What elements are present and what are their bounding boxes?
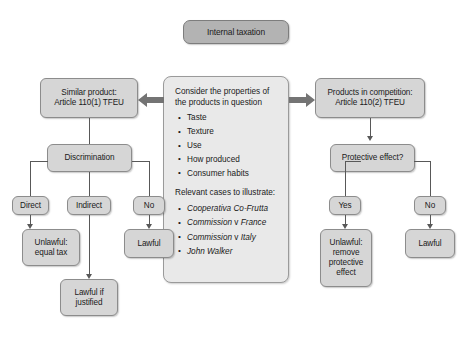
case-name-italic: Commission (187, 218, 232, 227)
node-direct-label: Direct (16, 201, 45, 211)
connector-indirect-to-lawful-if-justified (89, 215, 90, 277)
panel-lead-text: Consider the properties of the products … (175, 87, 277, 108)
node-products-in-competition-line1: Products in competition: (328, 88, 413, 97)
node-protective-no-label: No (418, 201, 442, 211)
flowchart-canvas: Internal taxation Consider the propertie… (0, 0, 471, 339)
connector-discrimination-mid-drop (89, 172, 90, 196)
connector-protective-left-drop (345, 161, 346, 196)
list-item: Commission v France (187, 218, 277, 229)
node-similar-product-label: Similar product: Article 110(1) TFEU (44, 88, 134, 108)
list-item: Use (187, 141, 277, 152)
list-item: Consumer habits (187, 169, 277, 180)
list-item: John Walker (187, 247, 277, 258)
arrow-right-to-products-in-competition (289, 93, 315, 107)
case-name-italic: John Walker (187, 247, 232, 256)
node-unlawful-remove-line3: protective (329, 258, 364, 267)
connector-products-to-protective (370, 118, 371, 138)
node-indirect-label: Indirect (71, 201, 107, 211)
node-discrimination: Discrimination (47, 144, 132, 172)
case-name-italic: Cooperativa Co-Frutta (187, 204, 268, 213)
case-versus: v (234, 218, 238, 227)
node-lawful-right: Lawful (405, 229, 455, 258)
node-products-in-competition: Products in competition: Article 110(2) … (315, 78, 425, 118)
node-protective-no: No (414, 196, 446, 215)
node-similar-product-line2: Article 110(1) TFEU (54, 98, 124, 107)
node-direct: Direct (12, 196, 49, 215)
case-versus: v (234, 233, 238, 242)
properties-list: Taste Texture Use How produced Consumer … (175, 113, 277, 179)
node-unlawful-remove-line1: Unlawful: (330, 238, 363, 247)
node-discrimination-no: No (133, 196, 165, 215)
node-internal-taxation-label: Internal taxation (187, 27, 285, 37)
panel-consider-properties: Consider the properties of the products … (163, 76, 289, 283)
node-lawful-if-justified-line1: Lawful if (74, 288, 103, 297)
node-unlawful-remove-line2: remove (333, 248, 360, 257)
connector-protective-split-right (414, 161, 431, 162)
node-indirect: Indirect (67, 196, 111, 215)
node-lawful-left-label: Lawful (128, 239, 170, 249)
node-lawful-left: Lawful (124, 229, 174, 258)
node-discrimination-label: Discrimination (51, 153, 128, 163)
node-protective-effect: Protective effect? (330, 144, 415, 172)
list-item: Cooperativa Co-Frutta (187, 204, 277, 215)
connector-discrimination-right-drop (149, 161, 150, 196)
node-lawful-right-label: Lawful (409, 239, 451, 249)
arrowhead-products-to-protective (367, 136, 373, 141)
case-party-italic: Italy (241, 233, 256, 242)
list-item: How produced (187, 155, 277, 166)
node-lawful-if-justified-label: Lawful if justified (64, 288, 114, 308)
node-similar-product-line1: Similar product: (61, 88, 116, 97)
node-unlawful-remove-protective-effect-label: Unlawful: remove protective effect (324, 238, 368, 278)
node-lawful-if-justified: Lawful if justified (60, 279, 118, 316)
connector-protective-split-left (345, 161, 361, 162)
case-party-italic: France (241, 218, 266, 227)
node-unlawful-equal-tax-label: Unlawful: equal tax (26, 238, 76, 258)
arrow-left-to-similar-product (138, 93, 164, 107)
list-item: Taste (187, 113, 277, 124)
panel-cases-lead-text: Relevant cases to illustrate: (175, 188, 277, 199)
node-lawful-if-justified-line2: justified (76, 298, 103, 307)
list-item: Commission v Italy (187, 233, 277, 244)
node-yes-label: Yes (333, 201, 357, 211)
node-yes: Yes (329, 196, 361, 215)
cases-list: Cooperativa Co-Frutta Commission v Franc… (175, 204, 277, 257)
list-item: Texture (187, 127, 277, 138)
node-products-in-competition-line2: Article 110(2) TFEU (335, 98, 405, 107)
node-unlawful-equal-tax: Unlawful: equal tax (22, 229, 80, 266)
connector-protective-right-drop (430, 161, 431, 196)
node-unlawful-remove-protective-effect: Unlawful: remove protective effect (320, 229, 372, 287)
node-products-in-competition-label: Products in competition: Article 110(2) … (319, 88, 421, 108)
connector-discrimination-left-drop (30, 161, 31, 196)
case-name-italic: Commission (187, 233, 232, 242)
node-unlawful-equal-tax-line1: Unlawful: (35, 238, 68, 247)
connector-discrimination-split-right (132, 161, 150, 162)
node-unlawful-equal-tax-line2: equal tax (35, 248, 67, 257)
connector-discrimination-split (30, 161, 48, 162)
connector-similar-to-discrimination (89, 118, 90, 144)
node-discrimination-no-label: No (137, 201, 161, 211)
node-similar-product: Similar product: Article 110(1) TFEU (40, 78, 138, 118)
node-unlawful-remove-line4: effect (336, 268, 355, 277)
node-internal-taxation: Internal taxation (183, 20, 289, 44)
